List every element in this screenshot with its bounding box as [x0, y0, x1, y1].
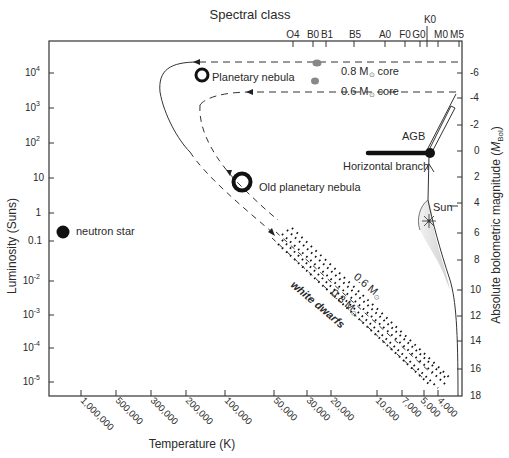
core-06-arrow-icon — [246, 89, 253, 95]
y-tick-0.1: 0.1 — [28, 235, 42, 246]
spectral-label-b5: B5 — [349, 29, 362, 40]
cooling-track-inner — [200, 105, 278, 220]
mag-tick-2: 2 — [474, 171, 480, 182]
spectral-label-b1: B1 — [321, 29, 334, 40]
core-08-label: 0.8 M⊙ core — [341, 65, 399, 78]
y-tick-1e3: 103 — [25, 100, 40, 113]
neutron-star-label: neutron star — [76, 225, 135, 237]
y-tick-1e2: 102 — [25, 135, 40, 148]
mag-tick-6: 6 — [474, 227, 480, 238]
mag-tick-12: 12 — [470, 310, 482, 321]
core-06-track — [200, 92, 456, 105]
agb-track — [426, 94, 456, 152]
y-tick-1e-3: 10-3 — [23, 307, 40, 320]
mag-tick-16: 16 — [470, 363, 482, 374]
mag-tick-4: 4 — [474, 197, 480, 208]
core-08-marker — [313, 60, 322, 67]
y-tick-1e4: 104 — [25, 65, 40, 78]
y-tick-1e-4: 10-4 — [23, 340, 40, 353]
agb-label: AGB — [402, 130, 425, 142]
x-tick-500000: 500,000 — [114, 395, 146, 427]
x-tick-100000: 100,000 — [223, 395, 255, 427]
y-tick-1e-5: 10-5 — [23, 374, 40, 387]
y-tick-1: 1 — [35, 207, 41, 218]
temperature-axis-label: Temperature (K) — [149, 437, 236, 451]
mag-tick-8: 8 — [474, 254, 480, 265]
core-06-label: 0.6 M⊙ core — [341, 85, 399, 98]
spectral-label-m5: M5 — [450, 29, 464, 40]
magnitude-axis: -6 -4 -2 0 2 4 6 8 10 12 14 16 18 — [457, 67, 482, 401]
x-tick-10000: 10,000 — [374, 395, 402, 423]
y-tick-1e-2: 10-2 — [23, 273, 40, 286]
sun-label: Sun — [433, 201, 453, 213]
white-dwarf-band-06 — [282, 228, 450, 384]
old-planetary-nebula-label: Old planetary nebula — [259, 181, 361, 193]
spectral-label-a0: A0 — [379, 29, 392, 40]
x-tick-300000: 300,000 — [149, 395, 181, 427]
spectral-class-axis: O4 B0 B1 B5 A0 F0 G0 K0 M0 M5 — [286, 14, 464, 47]
core-06-marker — [311, 78, 319, 85]
x-tick-1000000: 1,000,000 — [79, 395, 117, 433]
luminosity-axis-label: Luminosity (Suns) — [5, 198, 19, 294]
wd-06-label: 0.6 M⊙ — [351, 270, 385, 302]
mag-tick--4: -4 — [470, 92, 479, 103]
mag-tick-10: 10 — [470, 284, 482, 295]
spectral-label-f0: F0 — [399, 29, 411, 40]
mag-tick-0: 0 — [474, 145, 480, 156]
spectral-label-o4: O4 — [286, 29, 300, 40]
x-tick-7000: 7,000 — [400, 395, 425, 420]
planetary-nebula-icon — [196, 69, 208, 81]
main-sequence-band — [418, 200, 450, 290]
sun-icon — [422, 214, 436, 228]
x-tick-30000: 30,000 — [305, 395, 333, 423]
mag-tick-18: 18 — [470, 390, 482, 401]
spectral-label-m0: M0 — [434, 29, 448, 40]
hr-diagram: Spectral class O4 B0 B1 B5 A0 F0 G0 K0 M… — [0, 0, 509, 458]
x-tick-20000: 20,000 — [329, 395, 357, 423]
mag-tick--6: -6 — [470, 67, 479, 78]
mag-tick--2: -2 — [470, 119, 479, 130]
core-08-arrow-icon — [193, 59, 200, 65]
spectral-class-title: Spectral class — [210, 7, 291, 22]
spectral-label-b0: B0 — [307, 29, 320, 40]
horizontal-branch-label: Horizontal branch — [343, 160, 429, 172]
white-dwarfs-label: white dwarfs — [289, 278, 348, 330]
magnitude-axis-label: Absolute bolometric magnitude (MBol) — [489, 126, 505, 324]
mag-tick-14: 14 — [470, 335, 482, 346]
spectral-label-g0: G0 — [412, 29, 426, 40]
old-planetary-nebula-icon — [234, 174, 251, 191]
planetary-nebula-label: Planetary nebula — [212, 71, 295, 83]
x-tick-50000: 50,000 — [272, 395, 300, 423]
x-tick-200000: 200,000 — [184, 395, 216, 427]
spectral-label-k0: K0 — [424, 14, 437, 25]
core-08-outer-curve — [160, 62, 198, 152]
horizontal-branch-end-dot — [425, 148, 435, 158]
y-tick-10: 10 — [33, 172, 45, 183]
neutron-star-icon — [57, 226, 70, 239]
